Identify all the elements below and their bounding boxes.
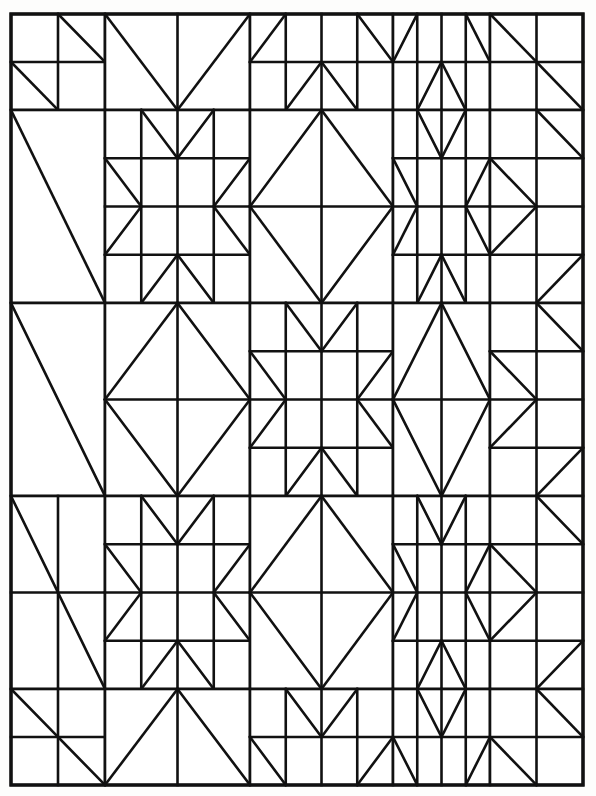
quilt-drawing xyxy=(0,0,596,796)
quilt-pattern-page xyxy=(0,0,596,796)
quilt-geometry-group xyxy=(11,14,583,785)
